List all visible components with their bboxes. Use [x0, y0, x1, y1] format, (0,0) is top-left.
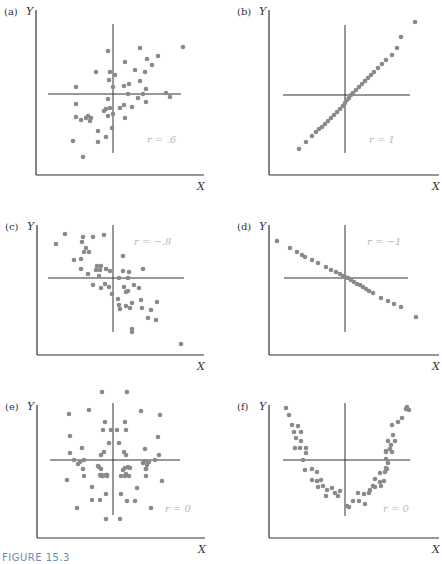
- data-point: [384, 58, 389, 63]
- data-point: [100, 390, 105, 395]
- data-point: [299, 439, 304, 444]
- data-point: [111, 85, 116, 90]
- panel-label: (c): [5, 221, 19, 232]
- data-point: [121, 254, 126, 259]
- data-point: [117, 441, 122, 446]
- data-point: [303, 255, 308, 260]
- data-point: [102, 109, 107, 114]
- panel-label: (a): [4, 6, 18, 17]
- data-point: [154, 318, 159, 323]
- data-point: [333, 491, 338, 496]
- y-axis-label: Y: [27, 400, 36, 413]
- data-point: [75, 506, 80, 511]
- data-point: [127, 270, 132, 275]
- panel-label: (b): [237, 6, 251, 17]
- x-axis-label: X: [196, 360, 206, 373]
- data-point: [121, 468, 126, 473]
- panel-label: (e): [5, 401, 19, 412]
- data-point: [284, 406, 289, 411]
- data-point: [164, 91, 169, 96]
- data-point: [297, 147, 302, 152]
- y-axis-label: Y: [259, 220, 268, 233]
- data-point: [88, 119, 93, 124]
- data-point: [141, 461, 146, 466]
- data-point: [107, 285, 112, 290]
- data-point: [137, 286, 142, 291]
- data-point: [68, 451, 73, 456]
- data-point: [149, 308, 154, 313]
- data-point: [362, 492, 367, 497]
- data-point: [379, 484, 384, 489]
- data-point: [126, 465, 131, 470]
- data-point: [372, 70, 377, 75]
- data-point: [123, 60, 128, 65]
- data-point: [108, 70, 113, 75]
- data-point: [80, 446, 85, 451]
- data-point: [123, 474, 128, 479]
- data-point: [139, 298, 144, 303]
- data-point: [102, 233, 107, 238]
- data-point: [96, 129, 101, 134]
- scatter-panel-b: (b)YXr = 1: [237, 5, 441, 193]
- data-point: [138, 46, 143, 51]
- data-point: [119, 474, 124, 479]
- data-point: [144, 87, 149, 92]
- data-point: [132, 283, 137, 288]
- data-point: [139, 409, 144, 414]
- data-point: [155, 300, 160, 305]
- data-point: [117, 276, 122, 281]
- scatter-panel-c: (c)YXr = −.8: [5, 220, 206, 373]
- data-point: [390, 423, 395, 428]
- data-point: [373, 485, 378, 490]
- data-point: [141, 92, 146, 97]
- data-point: [123, 420, 128, 425]
- data-point: [110, 292, 115, 297]
- data-point: [373, 477, 378, 482]
- data-point: [316, 261, 321, 266]
- data-point: [413, 20, 418, 25]
- data-point: [94, 268, 99, 273]
- data-point: [72, 258, 77, 263]
- data-point: [108, 269, 113, 274]
- scatter-panel-f: (f)YXr = 0: [237, 400, 441, 556]
- data-point: [295, 250, 300, 255]
- data-point: [386, 461, 391, 466]
- data-point: [301, 458, 306, 463]
- data-point: [330, 486, 335, 491]
- data-point: [378, 471, 383, 476]
- data-point: [74, 102, 79, 107]
- x-axis-label: X: [431, 543, 441, 556]
- data-point: [310, 258, 315, 263]
- data-point: [135, 486, 140, 491]
- data-point: [149, 506, 154, 511]
- data-point: [126, 92, 131, 97]
- data-point: [104, 517, 109, 522]
- data-point: [94, 70, 99, 75]
- data-point: [156, 54, 161, 59]
- data-point: [79, 257, 84, 262]
- data-point: [86, 272, 91, 277]
- data-point: [65, 478, 70, 483]
- data-point: [144, 100, 149, 105]
- data-point: [90, 498, 95, 503]
- data-point: [130, 301, 135, 306]
- data-point: [275, 239, 280, 244]
- data-point: [391, 433, 396, 438]
- data-point: [107, 441, 112, 446]
- data-point: [296, 424, 301, 429]
- data-point: [68, 434, 73, 439]
- data-point: [384, 449, 389, 454]
- data-point: [390, 450, 395, 455]
- data-point: [116, 297, 121, 302]
- data-point: [124, 304, 129, 309]
- data-point: [290, 423, 295, 428]
- data-point: [72, 458, 77, 463]
- data-point: [103, 282, 108, 287]
- data-point: [67, 412, 72, 417]
- data-point: [91, 235, 96, 240]
- data-point: [133, 68, 138, 73]
- correlation-label: r = 1: [369, 134, 395, 145]
- data-point: [74, 85, 79, 90]
- data-point: [293, 446, 298, 451]
- data-point: [118, 106, 123, 111]
